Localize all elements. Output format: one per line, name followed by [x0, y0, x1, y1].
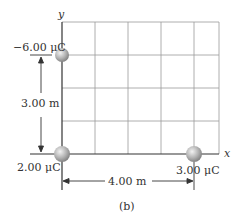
horizontal-distance-label: 4.00 m: [108, 176, 146, 187]
charge-top-label: −6.00 μC: [13, 42, 66, 53]
x-axis-label: x: [224, 148, 230, 159]
charge-origin-label: 2.00 μC: [17, 162, 61, 173]
grid: [62, 22, 219, 154]
charge-right-label: 3.00 μC: [176, 165, 220, 176]
charge-origin: [54, 146, 70, 162]
charge-right: [186, 146, 202, 162]
figure-caption: (b): [119, 201, 135, 212]
vertical-distance-label: 3.00 m: [21, 98, 59, 109]
y-axis-label: y: [58, 9, 64, 20]
